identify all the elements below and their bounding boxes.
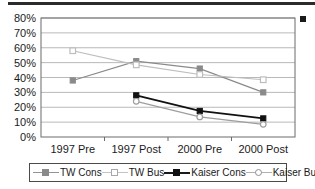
y-tick-label: 20% [14,101,36,113]
data-point-marker [70,48,76,54]
legend-label-kaiser-bus: Kaiser Bus [273,167,315,178]
line-chart: 0%10%20%30%40%50%60%70%80% 1997 Pre1997 … [0,0,315,189]
legend-item-tw-cons: TW Cons [33,167,102,178]
data-point-marker [261,90,266,95]
data-point-marker [133,99,139,105]
open-circle-marker-icon [246,168,272,178]
data-point-marker [260,122,266,128]
data-point-marker [70,78,75,83]
legend-label-tw-cons: TW Cons [60,167,102,178]
legend-item-kaiser-cons: Kaiser Cons [164,167,245,178]
x-tick-label: 2000 Pre [177,143,222,155]
filled-square-marker-icon [164,168,190,178]
legend-label-kaiser-cons: Kaiser Cons [191,167,245,178]
data-point-marker [197,114,203,120]
data-point-marker [261,116,266,121]
series-lines [73,51,264,125]
data-point-marker [134,93,139,98]
y-tick-label: 50% [14,57,36,69]
data-point-marker [260,77,266,83]
chart-legend: TW Cons TW Bus Kaiser Cons Kaiser Bus [29,163,287,182]
y-tick-label: 10% [14,116,36,128]
x-tick-label: 1997 Pre [50,143,95,155]
y-tick-label: 60% [14,42,36,54]
plot-area: 0%10%20%30%40%50%60%70%80% 1997 Pre1997 … [0,0,315,189]
y-tick-label: 70% [14,27,36,39]
y-tick-label: 0% [20,131,36,143]
x-axis-tick-marks [105,137,232,141]
data-point-marker [197,66,202,71]
y-tick-label: 80% [14,12,36,24]
y-axis-tick-labels: 0%10%20%30%40%50%60%70%80% [14,12,36,143]
x-tick-label: 1997 Post [111,143,161,155]
legend-label-tw-bus: TW Bus [129,167,165,178]
y-tick-label: 40% [14,72,36,84]
data-point-marker [133,62,139,68]
y-tick-label: 30% [14,86,36,98]
series-line [73,61,264,92]
legend-item-tw-bus: TW Bus [102,167,165,178]
legend-item-kaiser-bus: Kaiser Bus [246,167,315,178]
data-point-marker [197,108,202,113]
data-point-marker [197,72,203,78]
filled-square-marker-icon [33,168,59,178]
x-axis-tick-labels: 1997 Pre1997 Post2000 Pre2000 Post [50,143,288,155]
x-tick-label: 2000 Post [238,143,288,155]
open-square-marker-icon [102,168,128,178]
